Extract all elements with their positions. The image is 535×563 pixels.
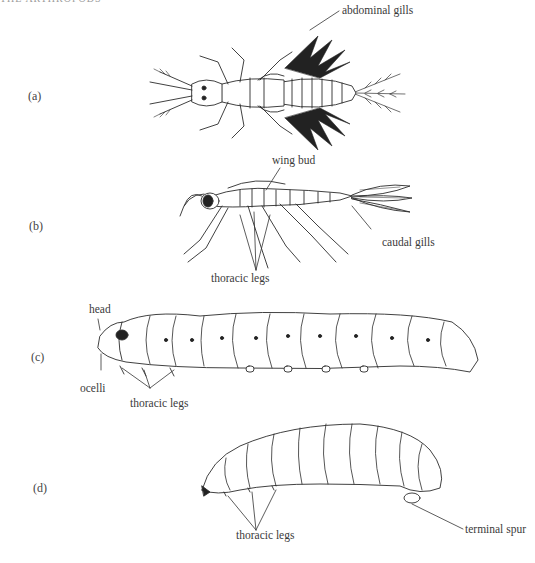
callout-head: head	[89, 303, 111, 315]
larva-c-drawing	[98, 312, 478, 376]
nymph-b-drawing	[180, 181, 412, 268]
panel-label-b: (b)	[29, 219, 43, 234]
callout-thoracic-legs-b: thoracic legs	[211, 272, 269, 284]
callout-thoracic-legs-c: thoracic legs	[130, 397, 188, 409]
callout-thoracic-legs-d: thoracic legs	[236, 529, 294, 541]
callout-ocelli: ocelli	[80, 382, 106, 394]
larva-d-drawing	[202, 424, 442, 503]
callout-abdominal-gills: abdominal gills	[342, 4, 413, 16]
panel-label-a: (a)	[28, 89, 41, 104]
callout-terminal-spur: terminal spur	[465, 523, 526, 535]
panel-label-c: (c)	[31, 350, 44, 365]
panel-label-d: (d)	[33, 481, 47, 496]
callout-wing-bud: wing bud	[272, 154, 315, 166]
callout-caudal-gills: caudal gills	[382, 236, 435, 248]
nymph-a-drawing	[150, 36, 405, 150]
